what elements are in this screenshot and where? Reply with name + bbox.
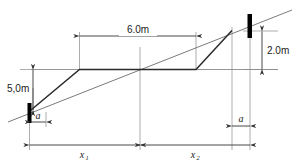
dimension-offset-left: a: [31, 110, 46, 127]
dimension-label-height-right: 2.0m: [267, 45, 289, 56]
dimension-label-height-left: 5,0m: [7, 83, 29, 94]
left-post: [28, 103, 32, 123]
dimension-label-baseline-left: x: [79, 149, 85, 160]
right-post: [248, 14, 253, 38]
dimension-label-baseline-right-subscript: 2: [196, 154, 200, 161]
dimension-label-offset-right: a: [239, 113, 244, 124]
dimension-label-baseline-right: x: [190, 149, 196, 160]
extension-lines: [20, 27, 278, 150]
cable-profile: [31, 31, 232, 111]
dimension-label-offset-left: a: [36, 110, 41, 121]
dimension-baseline-left: x 1: [30, 145, 141, 161]
dimension-offset-right: a: [232, 113, 250, 126]
dimension-baseline-right: x 2: [141, 145, 250, 161]
diagram-canvas: 6.0m 5,0m 2.0m a a x 1: [0, 0, 302, 166]
engineering-diagram: 6.0m 5,0m 2.0m a a x 1: [0, 0, 302, 166]
dimension-label-span-top: 6.0m: [127, 24, 149, 35]
dimension-label-baseline-left-subscript: 1: [85, 154, 88, 161]
dimension-height-right: 2.0m: [262, 32, 296, 70]
dimension-span-top: 6.0m: [80, 23, 197, 36]
